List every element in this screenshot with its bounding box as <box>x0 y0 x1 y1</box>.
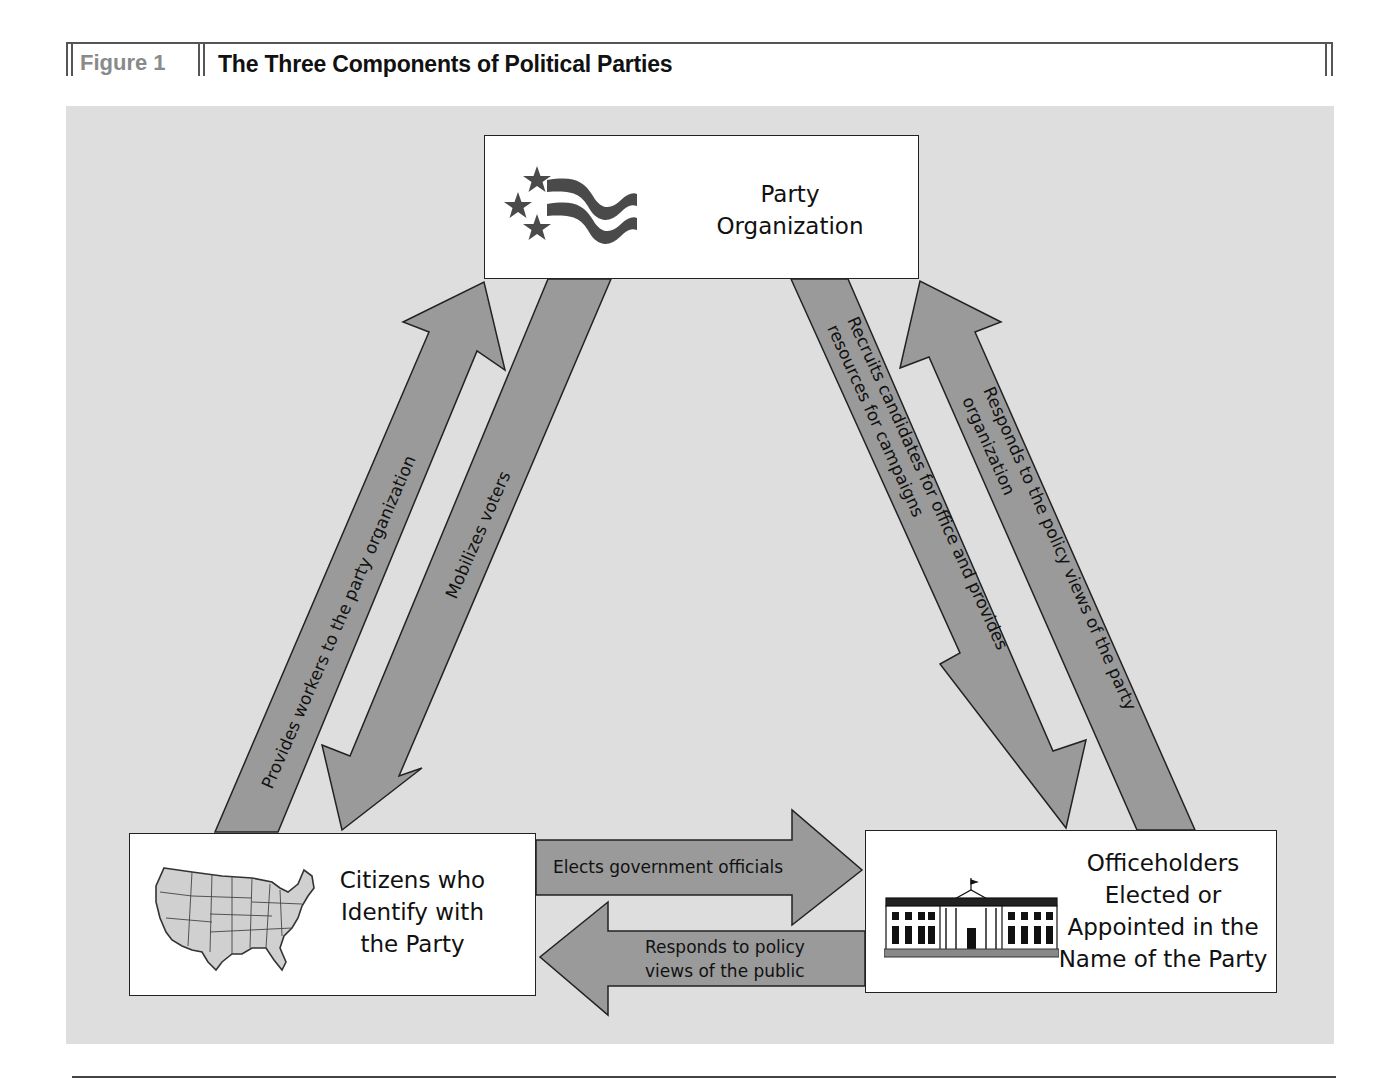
node-officeholders: Officeholders Elected or Appointed in th… <box>865 830 1277 993</box>
arrow-responds-public <box>540 902 865 1015</box>
officeholders-label: Officeholders Elected or Appointed in th… <box>1058 847 1268 975</box>
flag-stars-icon <box>503 166 643 248</box>
label-elects-officials: Elects government officials <box>553 857 783 877</box>
label-line: Name of the Party <box>1058 943 1268 975</box>
label-responds-public-line1: Responds to policy <box>645 937 805 957</box>
label-line: Identify with <box>330 896 495 928</box>
label-line: Party <box>690 178 890 210</box>
node-party-organization: Party Organization <box>484 135 919 279</box>
label-line: Organization <box>690 210 890 242</box>
label-responds-public-line2: views of the public <box>645 961 805 981</box>
node-citizens: Citizens who Identify with the Party <box>129 833 536 996</box>
label-line: Appointed in the <box>1058 911 1268 943</box>
label-line: Citizens who <box>330 864 495 896</box>
us-map-icon <box>152 862 320 974</box>
citizens-label: Citizens who Identify with the Party <box>330 864 495 960</box>
label-line: Officeholders <box>1058 847 1268 879</box>
bottom-rule <box>72 1076 1336 1078</box>
label-line: Elected or <box>1058 879 1268 911</box>
label-line: the Party <box>330 928 495 960</box>
party-organization-label: Party Organization <box>690 178 890 242</box>
white-house-icon <box>884 876 1059 961</box>
